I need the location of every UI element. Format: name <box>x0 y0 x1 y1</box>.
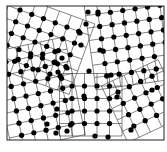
atom <box>52 59 57 64</box>
atom <box>21 35 26 40</box>
atom <box>157 3 162 8</box>
atom <box>145 4 150 9</box>
atom <box>107 96 112 101</box>
atom <box>21 81 26 86</box>
atom <box>16 57 21 62</box>
atom <box>82 83 87 88</box>
atom <box>69 96 74 101</box>
atom <box>128 127 133 132</box>
atom <box>94 108 99 113</box>
atom <box>127 57 132 62</box>
atom <box>107 108 112 113</box>
atom <box>32 39 37 44</box>
atom <box>14 108 19 113</box>
atom <box>152 54 157 59</box>
atom <box>77 30 82 35</box>
atom <box>69 108 74 113</box>
atoms <box>0 3 167 140</box>
atom <box>149 87 154 92</box>
atom <box>94 83 99 88</box>
atom <box>78 42 83 47</box>
atom <box>120 8 125 13</box>
atom <box>114 94 119 99</box>
atom <box>164 52 167 57</box>
lattice-diagram <box>0 0 167 152</box>
atom <box>3 59 8 64</box>
atom <box>69 121 74 126</box>
atom <box>159 15 164 20</box>
atom <box>9 84 14 89</box>
atom <box>54 106 59 111</box>
atom <box>97 47 102 52</box>
atom <box>36 67 41 72</box>
atom <box>83 21 88 26</box>
atom <box>72 41 77 46</box>
atom <box>60 36 65 41</box>
atom <box>16 121 21 126</box>
atom <box>82 108 87 113</box>
atom <box>161 27 166 32</box>
atom <box>25 23 30 28</box>
atom <box>33 79 38 84</box>
atom <box>43 128 48 133</box>
atom <box>107 121 112 126</box>
atom <box>59 55 64 60</box>
atom <box>64 25 69 30</box>
atom <box>166 65 167 70</box>
atom <box>113 47 118 52</box>
atom <box>44 44 49 49</box>
atom <box>125 45 130 50</box>
atom <box>69 83 74 88</box>
atom <box>138 79 143 84</box>
atom <box>47 71 52 76</box>
atom <box>86 68 91 73</box>
atom <box>43 64 48 69</box>
atom <box>38 103 43 108</box>
atom <box>19 133 24 138</box>
atom <box>17 7 22 12</box>
atom <box>41 16 46 21</box>
atom <box>143 90 148 95</box>
atom <box>53 130 58 135</box>
atom <box>134 19 139 24</box>
atom <box>127 84 132 89</box>
atom <box>136 31 141 36</box>
atom <box>105 134 110 139</box>
atom <box>13 19 18 24</box>
atom <box>141 68 146 73</box>
atom <box>85 9 90 14</box>
atom <box>60 86 65 91</box>
atom <box>108 72 113 77</box>
atom <box>23 93 28 98</box>
atom <box>53 113 58 118</box>
atom <box>149 74 154 79</box>
atom <box>68 52 73 57</box>
atom <box>154 66 159 71</box>
atom <box>94 96 99 101</box>
atom <box>53 20 58 25</box>
atom <box>163 40 167 45</box>
atom <box>36 91 41 96</box>
bond-lines <box>0 0 167 150</box>
atom <box>52 49 57 54</box>
atom <box>41 115 46 120</box>
atom <box>102 61 107 66</box>
atom <box>138 43 143 48</box>
atom <box>0 54 5 59</box>
atom <box>28 54 33 59</box>
atom <box>94 121 99 126</box>
atom <box>115 59 120 64</box>
atom <box>108 10 113 15</box>
atom <box>115 89 120 94</box>
atom <box>29 12 34 17</box>
atom <box>149 101 154 106</box>
atom <box>44 121 49 126</box>
atom <box>97 24 102 29</box>
atom <box>82 121 87 126</box>
atom <box>40 52 45 57</box>
atom <box>64 128 69 133</box>
atom <box>45 76 50 81</box>
atom <box>111 34 116 39</box>
atom <box>55 69 60 74</box>
atom <box>110 22 115 27</box>
